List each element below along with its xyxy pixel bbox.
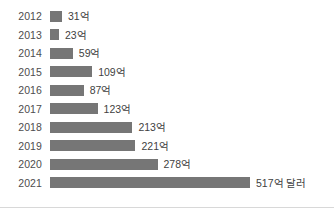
value-label-2015: 109억 <box>98 67 126 78</box>
value-label-2012: 31억 <box>68 11 90 22</box>
value-label-2013: 23억 <box>65 30 87 41</box>
year-label-2013: 2013 <box>0 30 50 41</box>
table-row-2016: 2016 87억 <box>0 81 334 100</box>
value-bar-2021 <box>50 177 250 188</box>
value-bar-2012 <box>50 11 62 22</box>
table-row-2020: 2020 278억 <box>0 155 334 174</box>
value-bar-2019 <box>50 140 135 151</box>
table-row-2017: 2017 123억 <box>0 100 334 119</box>
value-bar-2015 <box>50 66 92 77</box>
value-bar-2016 <box>50 85 84 96</box>
bar-area: 87억 <box>50 81 334 100</box>
value-bar-2017 <box>50 103 98 114</box>
value-bar-2018 <box>50 122 132 133</box>
year-label-2021: 2021 <box>0 178 50 189</box>
bar-area: 31억 <box>50 7 334 26</box>
table-row-2014: 2014 59억 <box>0 44 334 63</box>
bar-area: 109억 <box>50 63 334 82</box>
value-bar-2013 <box>50 29 59 40</box>
bar-area: 213억 <box>50 118 334 137</box>
year-label-2017: 2017 <box>0 104 50 115</box>
table-row-2019: 2019 221억 <box>0 137 334 156</box>
year-label-2019: 2019 <box>0 141 50 152</box>
year-label-2016: 2016 <box>0 85 50 96</box>
bar-area: 123억 <box>50 100 334 119</box>
value-label-2018: 213억 <box>138 122 166 133</box>
table-row-2021: 2021 517억 달러 <box>0 174 334 193</box>
value-label-2016: 87억 <box>90 85 112 96</box>
value-label-2014: 59억 <box>79 48 101 59</box>
bar-area: 221억 <box>50 137 334 156</box>
bar-area: 23억 <box>50 26 334 45</box>
year-label-2020: 2020 <box>0 159 50 170</box>
value-label-2020: 278억 <box>164 159 192 170</box>
bar-area: 517억 달러 <box>50 174 334 193</box>
bottom-divider <box>0 207 334 208</box>
bar-area: 278억 <box>50 155 334 174</box>
bar-area: 59억 <box>50 44 334 63</box>
year-label-2018: 2018 <box>0 122 50 133</box>
value-label-2021: 517억 달러 <box>256 178 306 189</box>
table-row-2013: 2013 23억 <box>0 26 334 45</box>
table-row-2012: 2012 31억 <box>0 7 334 26</box>
table-row-2015: 2015 109억 <box>0 63 334 82</box>
year-label-2014: 2014 <box>0 48 50 59</box>
bar-chart: 2012 31억 2013 23억 2014 59억 2015 109억 201… <box>0 0 334 213</box>
value-bar-2020 <box>50 159 158 170</box>
table-row-2018: 2018 213억 <box>0 118 334 137</box>
year-label-2015: 2015 <box>0 67 50 78</box>
value-label-2019: 221억 <box>141 141 169 152</box>
value-label-2017: 123억 <box>104 104 132 115</box>
value-bar-2014 <box>50 48 73 59</box>
year-label-2012: 2012 <box>0 11 50 22</box>
chart-rows: 2012 31억 2013 23억 2014 59억 2015 109억 201… <box>0 7 334 192</box>
